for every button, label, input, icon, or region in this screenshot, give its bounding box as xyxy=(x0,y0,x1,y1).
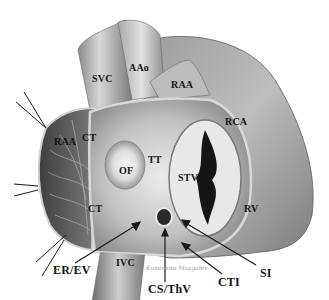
label-cti: CTI xyxy=(218,276,240,288)
label-cs-thv: CS/ThV xyxy=(148,283,191,295)
label-stv: STV xyxy=(178,173,198,183)
label-aao: AAo xyxy=(129,63,149,73)
label-svc: SVC xyxy=(92,74,113,84)
heart-illustration xyxy=(0,0,329,300)
label-rv: RV xyxy=(244,204,259,214)
label-raa-top: RAA xyxy=(171,80,193,90)
label-of: OF xyxy=(119,166,133,176)
label-rca: RCA xyxy=(225,117,247,127)
label-raa-left: RAA xyxy=(54,137,76,147)
label-ct-lower: CT xyxy=(88,204,102,214)
label-er-ev: ER/EV xyxy=(53,264,91,276)
artist-signature: Kusumoto Mazgalev xyxy=(146,264,208,271)
coronary-sinus-ostium xyxy=(156,208,172,226)
label-ivc: IVC xyxy=(116,258,135,268)
label-ct-top: CT xyxy=(82,133,96,143)
label-tt: TT xyxy=(148,155,162,165)
label-si: SI xyxy=(260,267,272,279)
anatomy-figure: SVC AAo RAA RCA RAA CT TT OF STV CT RV I… xyxy=(0,0,329,300)
